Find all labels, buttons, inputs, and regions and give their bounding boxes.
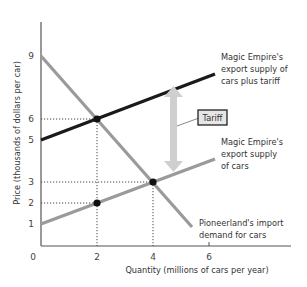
demand-curve	[41, 56, 192, 227]
supply-tariff-label-2: export supply of	[221, 64, 289, 74]
y-tick-2: 2	[28, 198, 34, 208]
tariff-chart: Tariff 9 6 5 3 2 1 0 2 4 6 Quantity (mil…	[0, 0, 307, 287]
supply-label-3: of cars	[221, 161, 249, 171]
y-axis-title: Price (thousands of dollars per car)	[12, 61, 22, 205]
y-tick-5: 5	[28, 135, 34, 145]
demand-label-1: Pioneerland's import	[199, 218, 284, 228]
x-tick-6: 6	[206, 252, 212, 262]
x-axis-title: Quantity (millions of cars per year)	[125, 265, 268, 275]
y-tick-6: 6	[28, 114, 34, 124]
supply-label-1: Magic Empire's	[221, 137, 283, 147]
y-tick-3: 3	[28, 177, 34, 187]
y-tick-1: 1	[28, 219, 34, 229]
demand-label-2: demand for cars	[199, 230, 266, 240]
supply-tariff-label-1: Magic Empire's	[221, 52, 283, 62]
tariff-leader	[177, 118, 199, 126]
x-tick-0: 0	[30, 252, 36, 262]
point-4-3	[149, 178, 156, 185]
tariff-label: Tariff	[202, 113, 223, 123]
guide-lines	[41, 119, 153, 246]
x-tick-4: 4	[150, 252, 156, 262]
point-2-6	[93, 115, 100, 122]
x-tick-2: 2	[94, 252, 100, 262]
point-2-2	[93, 199, 100, 206]
supply-curve	[41, 159, 215, 224]
supply-tariff-label-3: cars plus tariff	[221, 76, 280, 86]
tariff-arrow	[164, 86, 183, 172]
supply-label-2: export supply	[221, 149, 277, 159]
y-tick-9: 9	[28, 51, 34, 61]
